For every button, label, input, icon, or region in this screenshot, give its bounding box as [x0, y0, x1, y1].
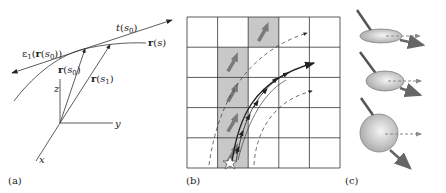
- panel-c: (c): [345, 10, 423, 186]
- caption-b: (b): [186, 175, 200, 186]
- panel-b: (b): [186, 17, 340, 186]
- panel-a: z y x t(s0) r(s) ε1(r(s0)) r(s0) r(s1) (…: [8, 20, 172, 186]
- y-axis-label: y: [114, 118, 121, 129]
- vector-r-s1: [60, 45, 110, 123]
- z-axis-label: z: [53, 83, 60, 94]
- caption-a: (a): [8, 175, 22, 186]
- curve-label: r(s): [148, 37, 166, 48]
- glyph-flat-ellipsoid: [357, 10, 423, 45]
- glyph-sphere: [360, 98, 421, 168]
- eigenvector-label: ε1(r(s0)): [22, 48, 62, 61]
- caption-c: (c): [345, 175, 359, 186]
- vector-r-s0: [60, 49, 85, 123]
- r-s1-label: r(s1): [91, 73, 114, 86]
- tangent-label: t(s0): [116, 22, 138, 35]
- x-axis-label: x: [39, 154, 45, 165]
- figure: z y x t(s0) r(s) ε1(r(s0)) r(s0) r(s1) (…: [0, 0, 446, 193]
- glyph-ellipsoid: [360, 52, 421, 95]
- r-s0-label: r(s0): [58, 64, 81, 77]
